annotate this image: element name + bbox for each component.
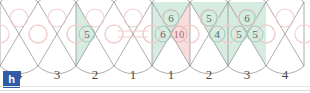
faint-circle xyxy=(48,9,66,27)
faint-circle xyxy=(86,9,104,27)
arc-top xyxy=(0,0,38,2)
cell-number: 6 xyxy=(244,12,250,24)
axis-label-3: 1 xyxy=(123,66,143,84)
cell-number: 5 xyxy=(236,28,242,40)
axis-label-2: 2 xyxy=(85,66,105,84)
cell-number: 5 xyxy=(206,12,212,24)
arc-top xyxy=(266,0,304,2)
cell-number: 4 xyxy=(214,28,220,40)
bottom-rule xyxy=(0,90,310,91)
cell-number: 6 xyxy=(168,12,174,24)
arc-top xyxy=(76,0,114,2)
faint-circle xyxy=(124,9,142,27)
axis-label-row: 4 3 2 1 1 2 3 4 xyxy=(0,66,310,86)
faint-circle xyxy=(10,9,28,27)
axis-label-7: 4 xyxy=(275,66,295,84)
faint-circle xyxy=(29,25,47,43)
figure-root: 5661054655 4 3 2 1 1 2 3 4 h xyxy=(0,0,310,93)
arc-top xyxy=(38,0,76,2)
faint-circle xyxy=(0,25,9,43)
lattice-diagram: 5661054655 xyxy=(0,0,310,75)
arc-top xyxy=(228,0,266,2)
frame-divider xyxy=(0,86,310,87)
cell-number: 10 xyxy=(174,28,186,40)
arc-top xyxy=(190,0,228,2)
axis-label-1: 3 xyxy=(47,66,67,84)
cell-number: 5 xyxy=(84,28,90,40)
axis-label-5: 2 xyxy=(199,66,219,84)
faint-circle xyxy=(295,25,310,43)
faint-circle xyxy=(105,25,123,43)
cell-number: 5 xyxy=(252,28,258,40)
axis-label-4: 1 xyxy=(161,66,181,84)
axis-label-6: 3 xyxy=(237,66,257,84)
arc-top xyxy=(114,0,152,2)
cell-number: 6 xyxy=(160,28,166,40)
faint-circle xyxy=(276,9,294,27)
arc-top xyxy=(152,0,190,2)
